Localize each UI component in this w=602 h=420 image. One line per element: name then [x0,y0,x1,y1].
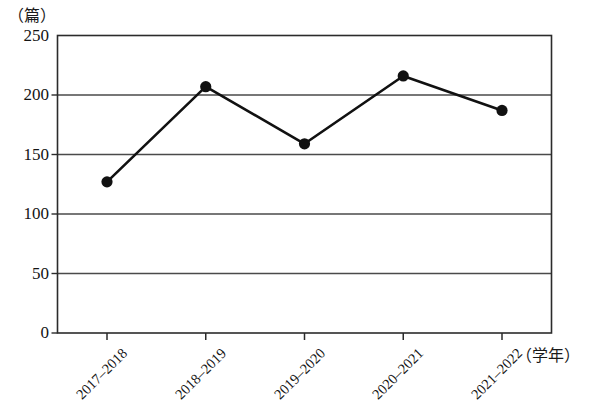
data-point-marker [101,176,112,187]
y-tick-label: 200 [3,85,49,105]
y-tick-label: 50 [3,264,49,284]
plot-frame-border [58,36,552,334]
data-point-marker [398,70,409,81]
data-point-marker [496,105,507,116]
line-chart-figure: （篇） （学年） 050100150200250 2017–20182018–2… [0,0,602,420]
y-tick-label: 150 [3,145,49,165]
gridlines-group [58,95,552,274]
y-tick-label: 100 [3,204,49,224]
data-point-marker [299,138,310,149]
data-point-marker [200,81,211,92]
data-line [107,76,502,182]
y-tick-label: 0 [3,323,49,343]
y-tick-label: 250 [3,26,49,46]
x-tick-marks-group [52,95,503,340]
